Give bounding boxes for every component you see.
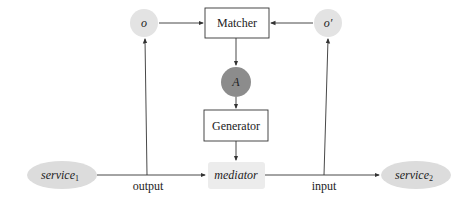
edge-input-to-oprime	[324, 39, 328, 175]
node-generator: Generator	[204, 110, 268, 141]
node-service2: service2	[381, 161, 451, 189]
node-o: o	[130, 9, 158, 37]
node-o-prime: o′	[314, 9, 342, 37]
svg-text:A: A	[231, 75, 240, 89]
node-mediator: mediator	[208, 162, 265, 189]
edges	[97, 23, 379, 175]
node-matcher: Matcher	[205, 8, 269, 38]
node-service1: service1	[27, 161, 97, 189]
svg-text:Generator: Generator	[212, 119, 260, 133]
svg-text:service2: service2	[395, 168, 433, 183]
svg-text:mediator: mediator	[214, 168, 258, 182]
svg-text:o: o	[141, 16, 147, 30]
svg-text:Matcher: Matcher	[217, 16, 257, 30]
svg-text:service1: service1	[41, 168, 79, 183]
edge-output-to-o	[145, 39, 147, 175]
svg-text:o′: o′	[324, 16, 333, 30]
node-A: A	[221, 67, 251, 97]
output-label: output	[133, 179, 164, 193]
architecture-diagram: o o′ Matcher A Generator mediator servic…	[0, 0, 473, 200]
input-label: input	[312, 179, 337, 193]
